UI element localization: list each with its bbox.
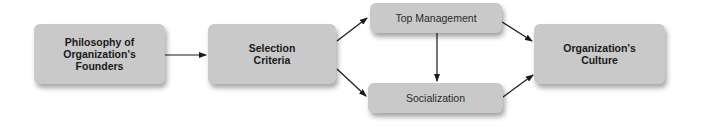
arrow-top-management-to-culture xyxy=(502,22,532,41)
node-label: Socialization xyxy=(406,92,465,104)
node-selection-criteria: Selection Criteria xyxy=(208,24,336,84)
arrow-selection-to-socialization xyxy=(337,69,366,96)
node-label-line: Culture xyxy=(581,54,618,66)
node-label-line: Organization's xyxy=(563,42,636,54)
node-socialization: Socialization xyxy=(368,83,503,113)
arrow-selection-to-top-management xyxy=(337,18,367,41)
node-organizations-culture: Organization's Culture xyxy=(534,24,665,84)
node-label-line: Founders xyxy=(76,60,124,72)
node-label-line: Selection xyxy=(249,42,296,54)
node-philosophy-of-founders: Philosophy of Organization's Founders xyxy=(34,24,165,84)
node-label-line: Philosophy of xyxy=(65,36,134,48)
node-top-management: Top Management xyxy=(370,3,502,33)
node-label-line: Criteria xyxy=(254,54,291,66)
arrow-socialization-to-culture xyxy=(503,75,533,97)
node-label-line: Organization's xyxy=(63,48,136,60)
node-label: Top Management xyxy=(395,12,476,24)
